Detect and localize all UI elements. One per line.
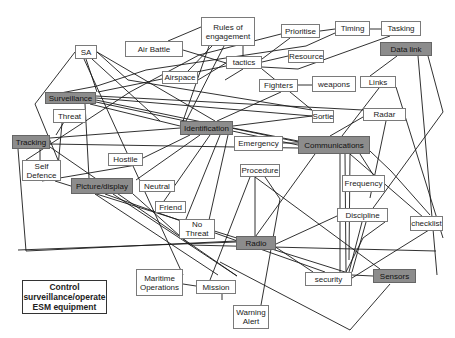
connector-line	[262, 38, 290, 59]
node-prioritise: Prioritise	[281, 24, 320, 38]
node-hostile: Hostile	[108, 153, 143, 166]
connector-line	[330, 117, 363, 136]
node-checklist: checklist	[410, 216, 443, 231]
connector-line	[363, 222, 385, 238]
connector-line	[320, 29, 335, 31]
diagram-canvas: Rules of engagementAir BattleSAPrioritis…	[0, 0, 455, 338]
node-sortie: Sortie	[312, 110, 334, 123]
connector-line	[186, 135, 220, 219]
node-picture: Picture/display	[71, 178, 133, 194]
node-timing: Timing	[335, 21, 370, 36]
connector-line	[50, 128, 180, 138]
connector-line	[349, 222, 362, 272]
node-threat: Threat	[53, 109, 86, 123]
connector-line	[350, 284, 390, 330]
node-fighters: Fighters	[259, 79, 298, 92]
connector-line	[349, 154, 350, 260]
node-neutral: Neutral	[139, 180, 175, 192]
node-tasking: Tasking	[381, 21, 421, 36]
node-friend: Friend	[155, 201, 186, 213]
connector-line	[368, 112, 443, 215]
connector-line	[92, 59, 160, 121]
node-datalink: Data link	[380, 42, 432, 56]
node-radar: Radar	[363, 108, 406, 121]
node-resource: Resource	[288, 50, 324, 63]
connector-line	[276, 216, 337, 244]
node-rules: Rules of engagement	[201, 17, 255, 46]
node-identification: Identification	[180, 121, 233, 135]
node-surveillance: Surveillance	[45, 92, 96, 104]
node-security: security	[305, 272, 352, 286]
node-procedure: Procedure	[240, 164, 280, 177]
connector-line	[370, 151, 391, 171]
node-selfdefence: Self Defence	[22, 160, 61, 181]
connector-line	[262, 67, 298, 69]
node-radio: Radio	[236, 236, 276, 250]
connector-line	[97, 52, 128, 80]
connector-line	[265, 177, 280, 199]
node-airspace: Airspace	[162, 71, 198, 84]
connector-line	[261, 199, 280, 305]
connector-line	[262, 56, 288, 62]
connector-line	[428, 56, 443, 112]
connector-line	[50, 147, 237, 276]
diagram-title-box: Control surveillance/operate ESM equipme…	[22, 280, 107, 314]
node-maritime: Maritime Operations	[136, 269, 183, 296]
connector-line	[136, 135, 200, 180]
connector-line	[225, 69, 243, 80]
node-links: Links	[360, 76, 396, 88]
node-weapons: weapons	[312, 76, 356, 92]
connector-line	[274, 246, 313, 272]
node-tactics: tactics	[226, 56, 262, 69]
connector-line	[370, 56, 397, 76]
connector-line	[18, 242, 236, 250]
node-tracking: Tracking	[12, 135, 50, 149]
node-sa: SA	[75, 45, 97, 59]
connector-line	[190, 245, 436, 251]
node-warning: Warning Alert	[233, 305, 269, 329]
connector-line	[168, 27, 201, 41]
node-sensors: Sensors	[373, 269, 416, 283]
connector-line	[210, 177, 250, 280]
node-airbattle: Air Battle	[125, 41, 183, 57]
node-nothreat: No Threat	[179, 219, 215, 239]
connector-line	[233, 116, 312, 126]
node-emergency: Emergency	[234, 136, 283, 151]
node-mission: Mission	[196, 280, 236, 294]
connector-line	[183, 284, 196, 286]
node-communications: Communications	[298, 136, 370, 154]
node-frequency: Frequency	[342, 175, 385, 192]
node-discipline: Discipline	[337, 208, 388, 222]
